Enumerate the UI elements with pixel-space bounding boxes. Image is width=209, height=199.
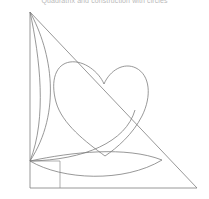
lens-lower — [30, 160, 162, 176]
figure-container: Quadratrix and construction with circles — [0, 0, 209, 199]
right-angle-marker-icon — [30, 161, 60, 188]
narrow-petal-inner — [30, 12, 40, 161]
geometry-diagram — [0, 0, 209, 199]
triangle-hypotenuse — [30, 12, 197, 188]
heart-curve — [54, 62, 149, 156]
quarter-arc — [30, 110, 135, 161]
